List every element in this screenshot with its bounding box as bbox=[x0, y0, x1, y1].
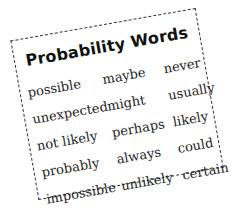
word-grid: possible maybe never unexpected might us… bbox=[26, 53, 222, 214]
probability-words-card: Probability Words possible maybe never u… bbox=[10, 8, 223, 200]
